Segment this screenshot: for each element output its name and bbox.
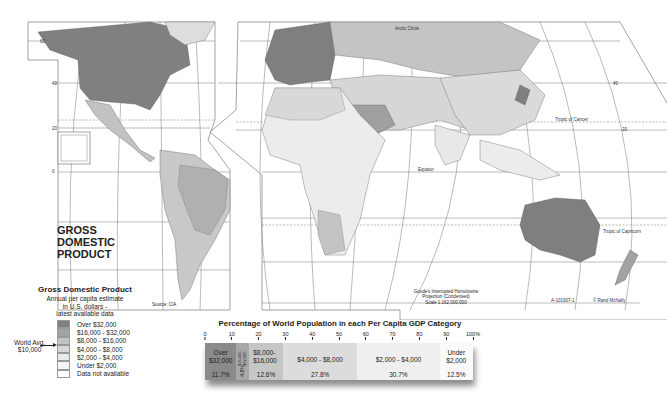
equator-label: Equator [418, 167, 434, 172]
svg-text:40: 40 [52, 81, 58, 86]
svg-text:0: 0 [52, 169, 55, 174]
world-map: Arctic Circle Tropic of Cancer Equator T… [0, 0, 667, 320]
legend-item: $4,000 - $8,000 [57, 345, 130, 353]
svg-text:40: 40 [613, 81, 619, 86]
stacked-bar: Over$32,000 11.7% $16,000-$32,000 4.8% $… [205, 343, 473, 380]
map-id: A-101907-1 [551, 298, 575, 303]
segment-under-2000: Under$2,000 12.5% [440, 343, 473, 380]
arrow-icon [40, 345, 55, 346]
arctic-circle-label: Arctic Circle [395, 26, 419, 31]
swatch [57, 337, 70, 345]
legend-items: Over $32,000 $16,000 - $32,000 $8,000 - … [57, 320, 130, 378]
legend-item: Under $2,000 [57, 361, 130, 369]
chart-title: Percentage of World Population in each P… [195, 319, 485, 328]
swatch [57, 353, 70, 361]
segment-4000-8000: $4,000 - $8,000 27.8% [283, 343, 357, 380]
segment-8000-16000: $8,000-$16,000 12.6% [249, 343, 283, 380]
svg-text:60: 60 [40, 39, 46, 44]
legend-item: Over $32,000 [57, 320, 130, 328]
swatch [57, 361, 70, 369]
source-credit: Source: CIA [152, 302, 176, 307]
swatch [57, 370, 70, 378]
population-chart: Percentage of World Population in each P… [195, 318, 485, 411]
legend-item: $8,000 - $16,000 [57, 337, 130, 345]
projection-note: Goode's Interrupted Homolosine Projectio… [408, 289, 484, 305]
copyright: © Rand McNally [593, 298, 626, 303]
legend-item: $2,000 - $4,000 [57, 353, 130, 361]
tropic-of-capricorn-label: Tropic of Capricorn [603, 229, 642, 234]
swatch [57, 320, 70, 328]
svg-text:20: 20 [622, 127, 628, 132]
svg-text:20: 20 [52, 126, 58, 131]
map-title: GROSS DOMESTIC PRODUCT [57, 224, 115, 260]
world-average-label: World Avg. $10,000 [14, 339, 45, 353]
swatch [57, 328, 70, 336]
segment-over-32000: Over$32,000 11.7% [205, 343, 236, 380]
legend-item: Data not available [57, 370, 130, 378]
legend-item: $16,000 - $32,000 [57, 328, 130, 336]
legend-subtitle: Annual per capita estimate in U.S. dolla… [20, 295, 150, 318]
legend-heading: Gross Domestic Product [20, 285, 150, 294]
segment-16000-32000: $16,000-$32,000 4.8% [236, 343, 249, 380]
chart-axis: 0 10 20 30 40 50 60 70 80 90 100% [205, 331, 473, 343]
swatch [57, 345, 70, 353]
tropic-of-cancer-label: Tropic of Cancer [555, 117, 589, 122]
segment-2000-4000: $2,000 - $4,000 30.7% [357, 343, 439, 380]
